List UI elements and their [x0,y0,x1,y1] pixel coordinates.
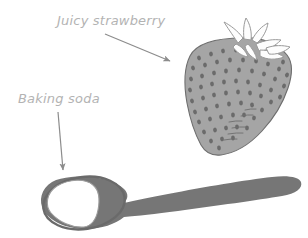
label-juicy-strawberry: Juicy strawberry [54,13,165,28]
illustration-canvas: Juicy strawberry Baking soda [0,0,308,238]
arrow-to-strawberry [105,34,170,61]
illustration-svg: Juicy strawberry Baking soda [0,0,308,238]
spoon-illustration [40,172,302,235]
strawberry-illustration [185,18,292,155]
label-baking-soda: Baking soda [18,91,100,106]
arrow-to-baking-soda [58,112,63,170]
